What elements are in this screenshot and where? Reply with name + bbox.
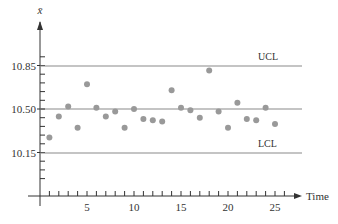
data-point	[56, 113, 62, 119]
data-point	[103, 113, 109, 119]
data-point	[122, 125, 128, 131]
axes: 10.1510.5010.85510152025	[11, 21, 302, 213]
data-point	[169, 87, 175, 93]
data-point	[84, 81, 90, 87]
control-chart: 10.1510.5010.85510152025 x̄ Time UCL LCL	[0, 0, 338, 224]
data-point	[46, 135, 52, 141]
data-point	[112, 108, 118, 114]
data-point	[65, 104, 71, 110]
data-points	[46, 67, 278, 140]
data-point	[253, 117, 259, 123]
data-point	[131, 106, 137, 112]
data-point	[159, 118, 165, 124]
data-point	[225, 125, 231, 131]
data-point	[263, 105, 269, 111]
data-point	[206, 67, 212, 73]
data-point	[178, 105, 184, 111]
y-tick-label: 10.85	[11, 60, 36, 72]
data-point	[272, 121, 278, 127]
data-point	[140, 116, 146, 122]
data-point	[93, 105, 99, 111]
data-point	[75, 125, 81, 131]
x-axis-arrow-icon	[294, 193, 302, 199]
data-point	[150, 117, 156, 123]
axis-labels: x̄ Time UCL LCL	[37, 4, 329, 202]
x-tick-label: 10	[129, 201, 141, 213]
data-point	[244, 116, 250, 122]
y-tick-label: 10.50	[11, 103, 36, 115]
data-point	[187, 107, 193, 113]
y-axis-label: x̄	[37, 4, 43, 16]
y-axis-arrow-icon	[37, 21, 43, 30]
x-tick-label: 5	[84, 201, 90, 213]
data-point	[216, 108, 222, 114]
lcl-label: LCL	[258, 138, 277, 149]
data-point	[197, 115, 203, 121]
x-axis-label: Time	[306, 190, 329, 202]
x-tick-label: 25	[270, 201, 282, 213]
data-point	[234, 100, 240, 106]
x-tick-label: 20	[223, 201, 235, 213]
y-tick-label: 10.15	[11, 147, 36, 159]
x-tick-label: 15	[176, 201, 188, 213]
ucl-label: UCL	[258, 51, 278, 62]
